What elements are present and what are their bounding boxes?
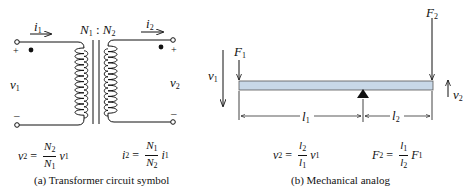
secondary-coil xyxy=(104,46,117,116)
lever-beam xyxy=(239,81,433,90)
caption-panel-a: (a) Transformer circuit symbol xyxy=(34,174,169,186)
label-v2: v2 xyxy=(170,76,180,91)
terminal-bottom-left xyxy=(15,123,20,128)
equation-force-ratio: F2 = l1l2 F1 xyxy=(372,139,423,172)
label-v2-velocity: v2 xyxy=(453,88,463,103)
label-turns-ratio: N1 : N2 xyxy=(80,23,115,38)
polarity-dot-secondary xyxy=(159,45,164,50)
label-f1: F1 xyxy=(234,45,246,60)
label-l2: l2 xyxy=(392,109,400,124)
plus-sign-secondary: + xyxy=(171,45,177,55)
equation-voltage-ratio: v2 = N2N1 v1 xyxy=(18,140,69,173)
minus-sign-primary: – xyxy=(14,110,20,121)
lever-diagram xyxy=(223,18,448,122)
terminal-top-right xyxy=(171,38,176,43)
label-f2: F2 xyxy=(426,6,438,21)
polarity-dot-primary xyxy=(29,48,34,53)
label-l1: l1 xyxy=(302,110,310,125)
label-i2: i2 xyxy=(146,17,154,32)
transformer-symbol xyxy=(15,32,176,127)
equation-velocity-ratio: v2 = l2l1 v1 xyxy=(273,139,320,172)
equation-current-ratio: i2 = N1N2 i1 xyxy=(122,139,169,172)
plus-sign-primary: + xyxy=(13,46,19,56)
label-v1-velocity: v1 xyxy=(208,69,218,84)
label-i1: i1 xyxy=(34,20,42,35)
caption-panel-b: (b) Mechanical analog xyxy=(291,174,390,186)
label-v1: v1 xyxy=(10,78,20,93)
minus-sign-secondary: – xyxy=(171,108,177,119)
primary-coil xyxy=(75,48,88,119)
terminal-top-left xyxy=(15,40,20,45)
terminal-bottom-right xyxy=(171,120,176,125)
